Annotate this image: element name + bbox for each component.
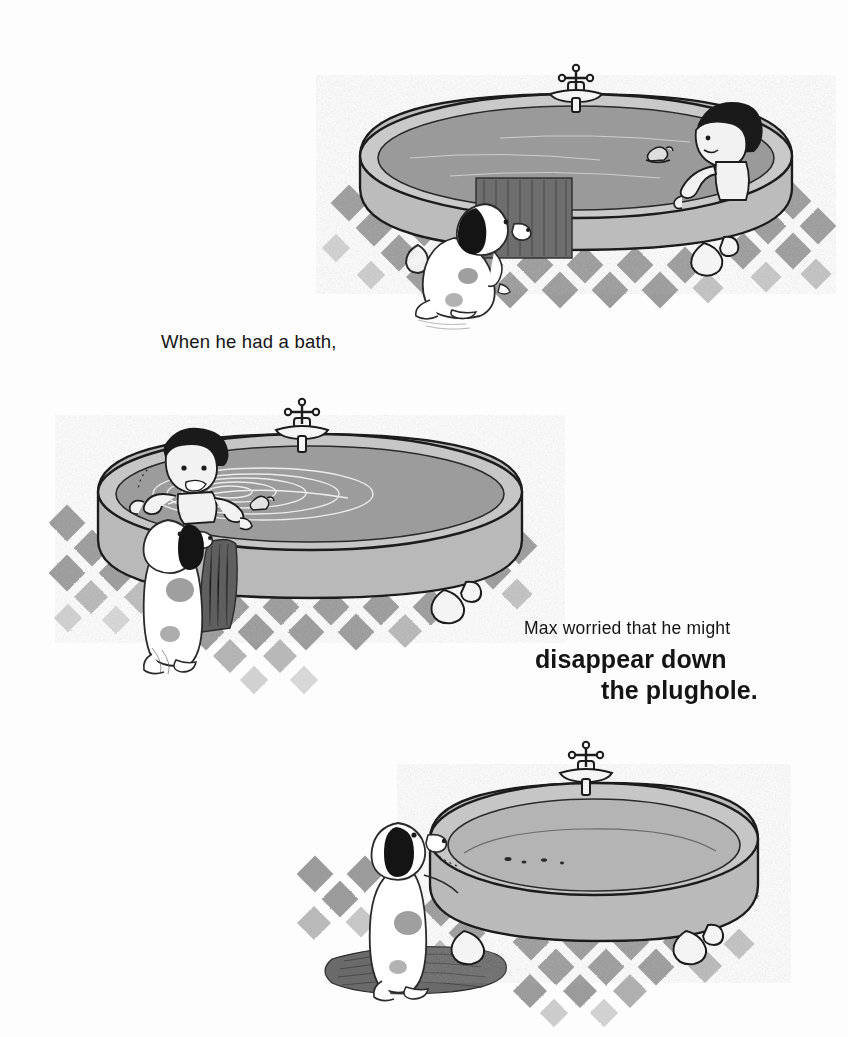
panel-1-boy-bathing <box>300 38 848 308</box>
panel-3-empty-tub-with-dog <box>288 735 768 1035</box>
dog-ear-patch <box>384 827 414 877</box>
caption-line-1: When he had a bath, <box>161 331 337 353</box>
towel <box>201 539 237 632</box>
dog <box>144 520 213 674</box>
empty-tub-interior <box>448 799 740 891</box>
caption-line-4: the plughole. <box>601 676 758 705</box>
caption-line-3: disappear down <box>535 645 727 674</box>
panel-2-boy-in-draining-tub <box>48 382 568 732</box>
illustration-page: When he had a bath, Max worried that he … <box>0 0 848 1037</box>
caption-line-2: Max worried that he might <box>524 618 730 639</box>
